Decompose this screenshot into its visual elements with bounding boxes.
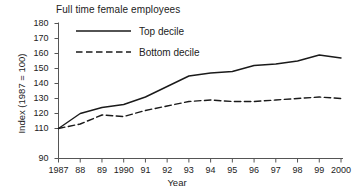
chart-container: Full time female employees Index (1987 =… (0, 0, 354, 196)
legend-swatch-group (76, 31, 131, 52)
series-line-top-decile (59, 55, 342, 129)
axes-group (55, 23, 344, 163)
series-group (59, 55, 342, 129)
series-line-bottom-decile (59, 97, 342, 129)
plot-area (0, 0, 354, 196)
